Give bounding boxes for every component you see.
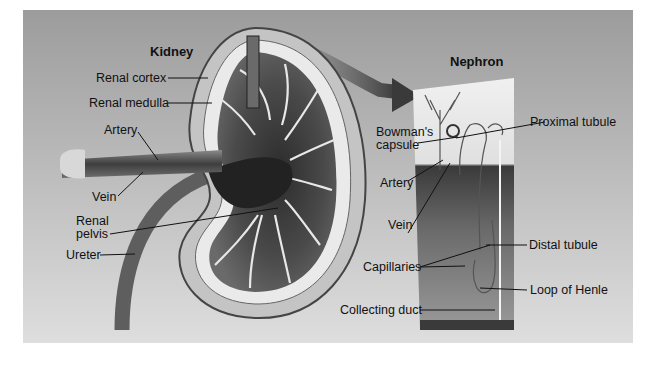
label-loop-of-henle: Loop of Henle [530, 284, 608, 297]
label-capillaries: Capillaries [363, 261, 421, 274]
nephron-section [413, 78, 514, 330]
label-nephron-vein: Vein [388, 219, 412, 232]
nephron-title: Nephron [450, 55, 503, 68]
label-distal-tubule: Distal tubule [529, 239, 598, 252]
label-proximal-tubule: Proximal tubule [530, 116, 616, 129]
label-vein: Vein [92, 191, 116, 204]
label-bowmans-line2: capsule [376, 139, 419, 152]
label-renal-medulla: Renal medulla [89, 97, 169, 110]
kidney-nephron-illustration [0, 0, 662, 369]
label-ureter: Ureter [66, 249, 101, 262]
label-artery: Artery [104, 124, 137, 137]
label-nephron-artery: Artery [380, 177, 413, 190]
label-collecting-duct: Collecting duct [340, 304, 422, 317]
label-renal-pelvis-line2: pelvis [76, 228, 108, 241]
kidney-title: Kidney [150, 45, 193, 58]
label-renal-cortex: Renal cortex [96, 72, 166, 85]
